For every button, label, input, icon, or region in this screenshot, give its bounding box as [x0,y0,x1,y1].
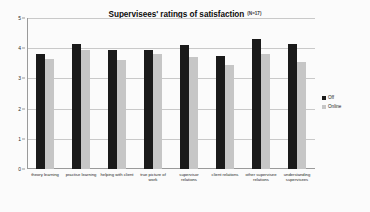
bar [108,50,117,169]
y-tick-label: 1 [18,136,21,141]
y-tick-mark [22,169,25,170]
bar [225,65,234,169]
chart-legend: OffOnline [322,96,341,113]
y-tick-label: 0 [18,167,21,172]
y-tick-label: 4 [18,46,21,51]
bar [297,62,306,169]
bar-group [63,18,99,169]
bar [72,44,81,169]
bars-layer [27,18,315,169]
bar [252,39,261,169]
bar-group [207,18,243,169]
bar-group [27,18,63,169]
bar-group [99,18,135,169]
x-tick-label: supervisor relations [171,172,207,182]
x-tick-label: helping with client [99,172,135,182]
bar-group [135,18,171,169]
y-tick-mark [22,48,25,49]
x-tick-label: other supervisee relations [243,172,279,182]
legend-item[interactable]: Off [322,96,341,101]
bar-group [243,18,279,169]
legend-label: Off [328,96,334,101]
x-axis-labels: theory learningpractise learninghelping … [27,172,315,182]
legend-swatch-icon [322,105,326,109]
y-tick-mark [22,138,25,139]
x-tick-label: true picture of work [135,172,171,182]
x-tick-label: practise learning [63,172,99,182]
bar-chart: Supervisees' ratings of satisfaction(N=1… [0,0,370,212]
y-tick-mark [22,18,25,19]
bar [81,50,90,169]
legend-label: Online [328,105,341,110]
bar [153,54,162,169]
chart-sample-size: (N=17) [247,11,261,16]
y-axis: 012345 [0,18,25,169]
x-tick-label: client relations [207,172,243,182]
y-tick-mark [22,78,25,79]
bar [216,56,225,169]
bar [288,44,297,169]
y-tick-mark [22,108,25,109]
legend-swatch-icon [322,96,326,100]
y-tick-label: 2 [18,106,21,111]
x-tick-label: theory learning [27,172,63,182]
bar [261,54,270,169]
y-tick-label: 3 [18,76,21,81]
bar [180,45,189,169]
bar-group [279,18,315,169]
legend-item[interactable]: Online [322,105,341,110]
x-tick-label: understanding supervisees [279,172,315,182]
bar [144,50,153,169]
bar [117,60,126,169]
bar [45,59,54,169]
bar-group [171,18,207,169]
bar [36,54,45,169]
bar [189,57,198,169]
y-tick-label: 5 [18,16,21,21]
